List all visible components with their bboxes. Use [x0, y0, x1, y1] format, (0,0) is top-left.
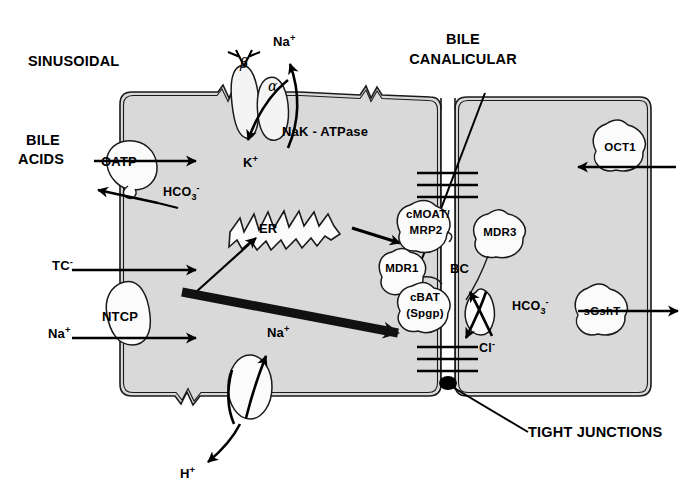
- bc-label: BC: [450, 262, 469, 276]
- hco3-left-label: HCO3-: [163, 184, 200, 202]
- h-efflux-arrow: [208, 424, 240, 462]
- mdr3-label: MDR3: [483, 226, 516, 238]
- k-top-label: K+: [243, 155, 258, 170]
- cbat-label-line1: cBAT: [410, 291, 440, 303]
- bile-canalicular-label-line2: CANALICULAR: [409, 52, 517, 67]
- nak-atpase-label: NaK - ATPase: [282, 125, 368, 139]
- ntcp-label: NTCP: [102, 310, 138, 324]
- bile-acids-label-line1: BILE: [26, 133, 60, 148]
- cbat-label-line2: (Spgp): [406, 307, 444, 319]
- mdr1-label: MDR1: [385, 262, 418, 274]
- hco3-right-label: HCO3-: [512, 298, 549, 316]
- tight-junctions-label: TIGHT JUNCTIONS: [528, 425, 662, 440]
- bile-canalicular-label-line1: BILE: [446, 32, 480, 47]
- er-label: ER: [259, 222, 277, 236]
- cmoat-label-line2: MRP2: [410, 224, 443, 236]
- oatp-label: OATP: [101, 155, 137, 169]
- na-top-label: Na+: [273, 34, 296, 49]
- oct1-label: OCT1: [604, 141, 635, 153]
- cl-minus-label: Cl-: [479, 340, 495, 355]
- na-ntcp-label: Na+: [48, 326, 71, 341]
- tc-minus-label: TC-: [52, 258, 73, 273]
- hepatocyte-transport-diagram: SINUSOIDAL BILE CANALICULAR BILE ACIDS O…: [0, 0, 693, 502]
- beta-subunit-label: β: [240, 56, 248, 71]
- bile-acids-label-line2: ACIDS: [18, 152, 64, 167]
- h-bottom-label: H+: [180, 466, 195, 481]
- sgsht-label: sGshT: [584, 305, 621, 317]
- sinusoidal-label: SINUSOIDAL: [28, 54, 119, 69]
- alpha-subunit-label: α: [268, 79, 278, 94]
- na-bottom-label: Na+: [267, 325, 290, 340]
- cmoat-label-line1: cMOAT/: [406, 208, 450, 220]
